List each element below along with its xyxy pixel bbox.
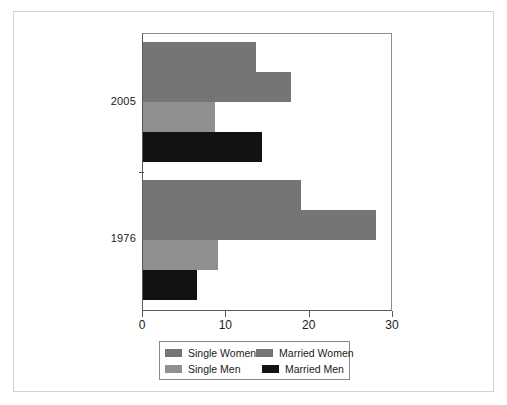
bar — [143, 180, 301, 210]
legend-swatch-married-women — [256, 349, 273, 357]
bar — [143, 42, 256, 72]
plot-area — [142, 33, 392, 311]
y-axis-group-tick — [139, 172, 144, 173]
chart-legend: Single Women Married Women Single Men Ma… — [159, 341, 350, 380]
x-axis-tick — [309, 311, 310, 317]
legend-label-married-women: Married Women — [279, 347, 354, 359]
x-axis-tick-label: 30 — [377, 318, 407, 332]
legend-swatch-single-women — [165, 349, 182, 357]
legend-item-single-women: Single Women — [165, 347, 256, 359]
x-axis-tick-label: 0 — [127, 318, 157, 332]
legend-swatch-married-men — [262, 365, 279, 373]
legend-row: Single Men Married Men — [165, 361, 344, 377]
bar — [143, 102, 215, 132]
bar — [143, 72, 291, 102]
x-axis-tick — [225, 311, 226, 317]
legend-row: Single Women Married Women — [165, 345, 344, 361]
legend-label-married-men: Married Men — [285, 363, 344, 375]
x-axis-tick-label: 10 — [210, 318, 240, 332]
legend-item-married-men: Married Men — [262, 363, 344, 375]
y-axis-label-1976: 1976 — [100, 232, 136, 244]
x-axis-tick — [392, 311, 393, 317]
legend-swatch-single-men — [165, 365, 182, 373]
bar — [143, 270, 197, 300]
bar — [143, 132, 262, 162]
legend-label-single-women: Single Women — [188, 347, 256, 359]
x-axis-tick — [142, 311, 143, 317]
legend-label-single-men: Single Men — [188, 363, 241, 375]
legend-item-married-women: Married Women — [256, 347, 354, 359]
bar — [143, 240, 218, 270]
x-axis: 0102030 — [142, 311, 393, 341]
legend-item-single-men: Single Men — [165, 363, 262, 375]
y-axis-label-2005: 2005 — [100, 95, 136, 107]
x-axis-tick-label: 20 — [294, 318, 324, 332]
chart-figure: 2005 1976 0102030 Single Women Married W… — [0, 0, 507, 405]
bar — [143, 210, 376, 240]
